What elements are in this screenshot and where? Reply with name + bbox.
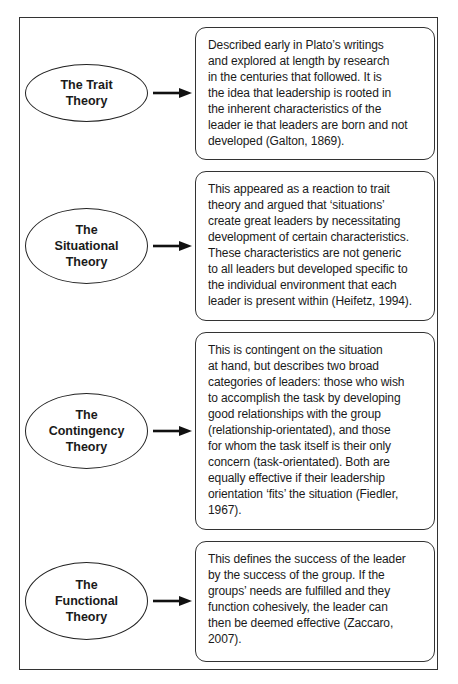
right-arrow-icon: [153, 241, 192, 251]
situational-theory-node: The Situational Theory: [25, 208, 148, 284]
right-arrow-icon: [153, 596, 192, 606]
functional-theory-description: This defines the success of the leader b…: [208, 551, 426, 647]
contingency-theory-node: The Contingency Theory: [25, 393, 148, 469]
functional-theory-description-box: This defines the success of the leader b…: [195, 541, 435, 662]
contingency-theory-label: The Contingency Theory: [49, 407, 125, 455]
trait-theory-description: Described early in Plato’s writings and …: [208, 37, 426, 149]
functional-theory-node: The Functional Theory: [25, 562, 148, 640]
trait-theory-description-box: Described early in Plato’s writings and …: [195, 27, 435, 160]
right-arrow-icon: [153, 88, 192, 98]
situational-theory-label: The Situational Theory: [55, 222, 119, 270]
trait-theory-node: The Trait Theory: [25, 64, 148, 122]
functional-theory-label: The Functional Theory: [55, 577, 118, 625]
situational-theory-description: This appeared as a reaction to trait the…: [208, 181, 426, 309]
contingency-theory-description-box: This is contingent on the situation at h…: [195, 332, 435, 530]
trait-theory-label: The Trait Theory: [60, 77, 112, 109]
right-arrow-icon: [153, 426, 192, 436]
contingency-theory-description: This is contingent on the situation at h…: [208, 342, 426, 518]
situational-theory-description-box: This appeared as a reaction to trait the…: [195, 171, 435, 321]
